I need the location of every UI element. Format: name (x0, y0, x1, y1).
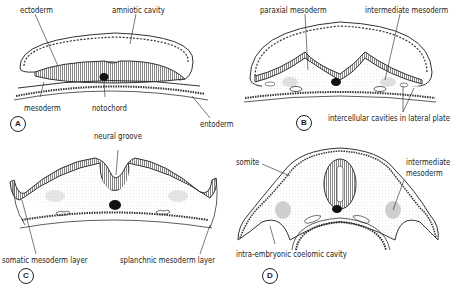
label-splanchnic-mesoderm: splanchnic mesoderm layer (120, 255, 215, 265)
label-ectoderm: ectoderm (20, 5, 53, 15)
label-intermediate-mesoderm-b: intermediate mesoderm (365, 5, 448, 15)
embryo-diagram (0, 0, 458, 288)
panel-marker-d: D (262, 268, 278, 284)
label-mesoderm: mesoderm (24, 103, 61, 113)
panel-marker-a: A (10, 116, 26, 132)
label-intermediate-d-line1: intermediate (406, 157, 450, 167)
panel-marker-c: C (18, 268, 34, 284)
label-paraxial-mesoderm: paraxial mesoderm (260, 5, 327, 15)
label-somite: somite (236, 157, 259, 167)
panel-c-drawing (10, 150, 217, 254)
label-neural-groove: neural groove (94, 131, 142, 141)
label-entoderm: entoderm (200, 119, 234, 129)
label-coelomic-cavity: intra-embryonic coelomic cavity (236, 249, 347, 259)
label-intermediate-d-line2: mesoderm (406, 168, 443, 178)
panel-marker-b: B (296, 115, 312, 131)
label-notochord: notochord (92, 103, 127, 113)
label-amniotic-cavity: amniotic cavity (112, 5, 165, 15)
label-somatic-mesoderm: somatic mesoderm layer (2, 255, 87, 265)
label-intercellular-cavities: intercellular cavities in lateral plate (328, 113, 450, 123)
panel-b-drawing (244, 14, 436, 112)
